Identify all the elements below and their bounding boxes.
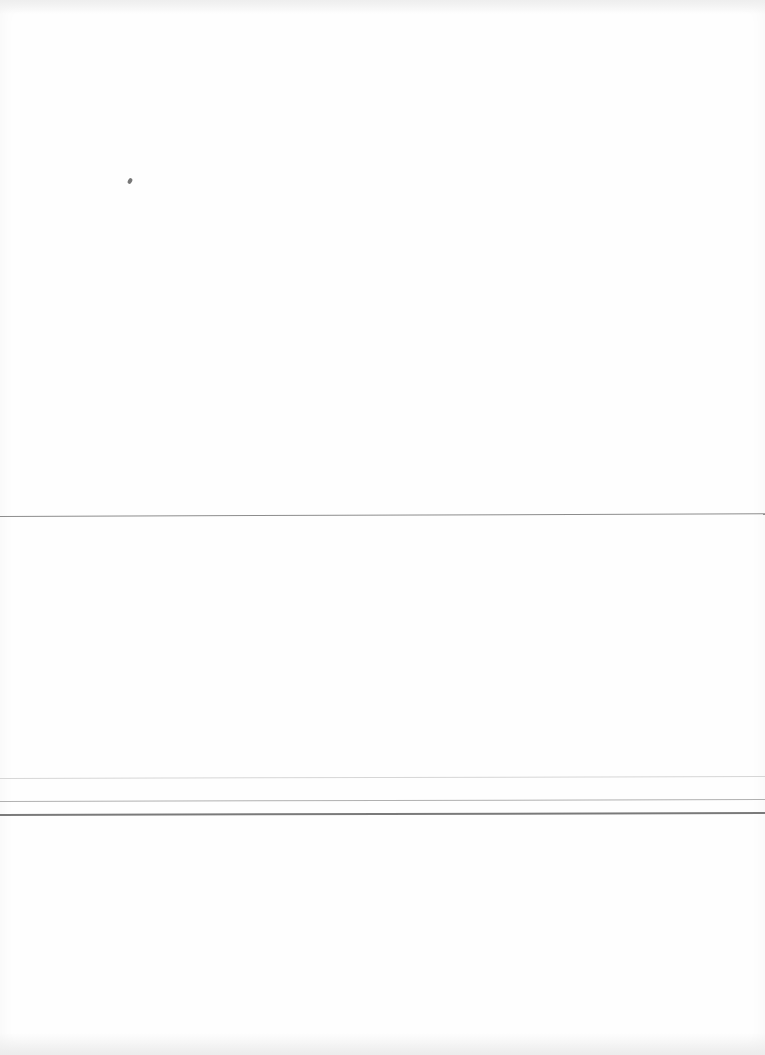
scan-shadow-top (0, 0, 765, 14)
scanned-page (0, 0, 765, 1055)
horizontal-rule (0, 812, 765, 816)
horizontal-rule (0, 513, 765, 517)
scan-shadow-bottom (0, 1033, 765, 1055)
horizontal-rule (0, 776, 765, 779)
dust-speck (127, 177, 133, 184)
horizontal-rule (0, 799, 765, 802)
